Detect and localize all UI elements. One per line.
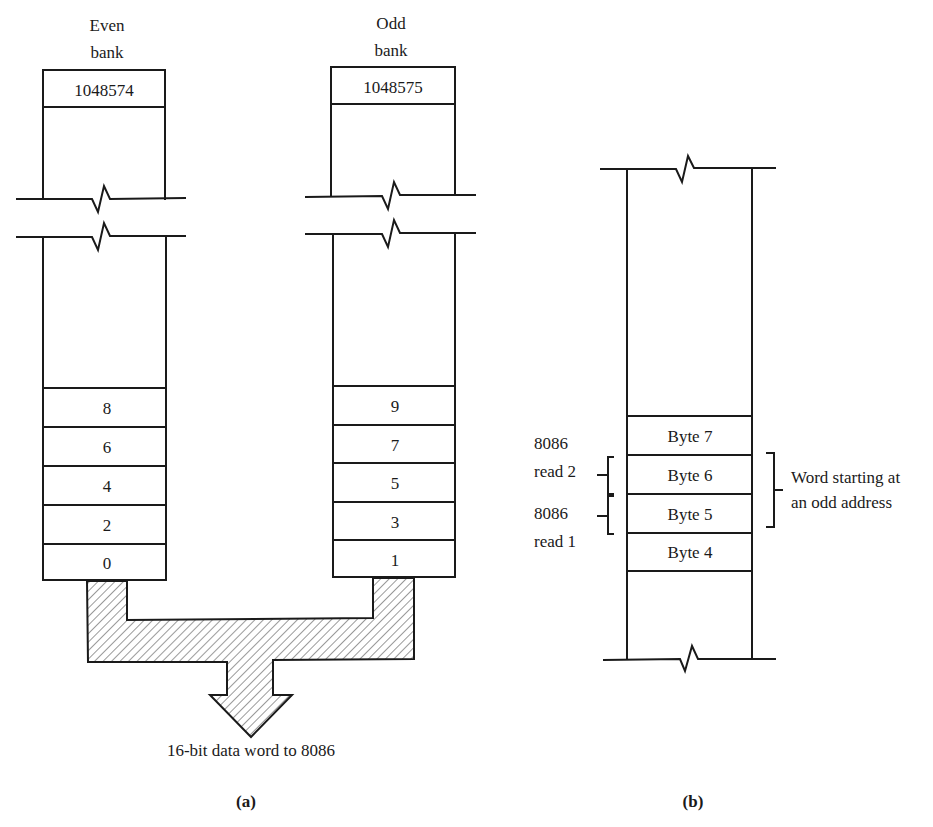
odd-bank-top-address: 1048575 — [363, 78, 423, 97]
break-mark-icon — [16, 186, 186, 212]
memory-cell: 0 — [103, 554, 112, 573]
memory-cell: 7 — [391, 436, 400, 455]
brace-read2-icon — [597, 457, 614, 494]
read2-label-line2: read 2 — [534, 462, 576, 481]
bus-label: 16-bit data word to 8086 — [167, 741, 335, 760]
memory-cell: 2 — [103, 516, 112, 535]
byte-cell: Byte 5 — [668, 505, 713, 524]
brace-word-icon — [766, 453, 783, 527]
even-bank-title-line1: Even — [90, 16, 125, 35]
memory-banks-diagram: Even bank 1048574 8 6 4 2 0 Odd bank — [0, 0, 933, 827]
even-bank-title-line2: bank — [90, 43, 124, 62]
memory-cell: 6 — [103, 438, 112, 457]
odd-bank-title-line1: Odd — [376, 14, 406, 33]
read1-label-line1: 8086 — [534, 504, 568, 523]
even-bank: Even bank 1048574 8 6 4 2 0 — [16, 16, 186, 580]
panel-a: Even bank 1048574 8 6 4 2 0 Odd bank — [16, 14, 476, 811]
memory-cell: 1 — [391, 551, 400, 570]
word-label-line2: an odd address — [791, 493, 892, 512]
read2-label-line1: 8086 — [534, 434, 568, 453]
memory-cell: 9 — [391, 397, 400, 416]
byte-cell: Byte 7 — [668, 427, 713, 446]
caption-a: (a) — [236, 792, 256, 811]
word-label-line1: Word starting at — [791, 468, 900, 487]
byte-cell: Byte 4 — [668, 543, 713, 562]
memory-cell: 3 — [391, 513, 400, 532]
data-bus-arrow-icon — [87, 578, 414, 737]
break-mark-icon — [16, 223, 186, 250]
read1-label-line2: read 1 — [534, 532, 576, 551]
odd-bank: Odd bank 1048575 9 7 5 3 1 — [305, 14, 476, 577]
even-bank-top-address: 1048574 — [74, 81, 134, 100]
odd-bank-title-line2: bank — [374, 41, 408, 60]
break-mark-icon — [305, 220, 476, 247]
memory-cell: 5 — [391, 474, 400, 493]
panel-b: Byte 7 Byte 6 Byte 5 Byte 4 8086 read 2 … — [534, 156, 900, 811]
byte-cell: Byte 6 — [668, 466, 713, 485]
memory-cell: 8 — [103, 399, 112, 418]
break-mark-icon — [603, 646, 776, 671]
caption-b: (b) — [683, 792, 704, 811]
memory-cell: 4 — [103, 477, 112, 496]
brace-read1-icon — [597, 496, 614, 534]
